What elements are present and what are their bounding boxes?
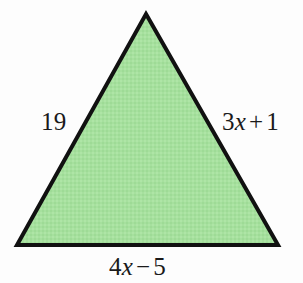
left-side-label-text: 19 bbox=[41, 108, 66, 135]
triangle-shape bbox=[0, 0, 303, 283]
bottom-side-constant: 5 bbox=[153, 253, 166, 280]
triangle-figure: 19 3x+1 4x−5 bbox=[0, 0, 303, 283]
bottom-side-variable: x bbox=[122, 253, 133, 280]
right-side-operator: + bbox=[246, 108, 266, 135]
left-side-label: 19 bbox=[41, 109, 66, 134]
right-side-label: 3x+1 bbox=[222, 109, 279, 134]
right-side-constant: 1 bbox=[266, 108, 279, 135]
bottom-side-coefficient: 4 bbox=[109, 253, 122, 280]
right-side-variable: x bbox=[235, 108, 246, 135]
bottom-side-label: 4x−5 bbox=[109, 254, 166, 279]
bottom-side-operator: − bbox=[133, 253, 153, 280]
right-side-coefficient: 3 bbox=[222, 108, 235, 135]
